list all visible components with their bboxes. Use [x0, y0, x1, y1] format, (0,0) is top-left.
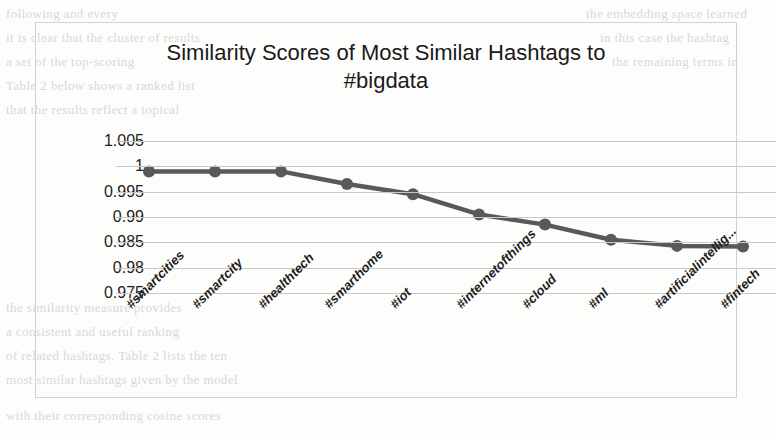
background-text-line: the embedding space learned — [586, 6, 747, 22]
gridline — [116, 166, 776, 167]
data-point-marker[interactable] — [341, 178, 353, 190]
background-text-line: with their corresponding cosine scores — [6, 408, 221, 424]
gridline — [116, 192, 776, 193]
gridline — [116, 268, 776, 269]
data-point-marker[interactable] — [605, 234, 617, 246]
plot-area — [116, 141, 776, 293]
data-point-marker[interactable] — [539, 219, 551, 231]
series-line — [149, 171, 743, 246]
gridline — [116, 242, 776, 243]
chart-title-line-1: Similarity Scores of Most Similar Hashta… — [96, 39, 676, 67]
gridline — [116, 217, 776, 218]
chart-title-line-2: #bigdata — [96, 67, 676, 95]
chart-figure: Similarity Scores of Most Similar Hashta… — [35, 22, 737, 398]
data-point-marker[interactable] — [473, 208, 485, 220]
data-point-marker[interactable] — [407, 188, 419, 200]
gridline — [116, 141, 776, 142]
background-text-line: following and every — [6, 6, 118, 22]
chart-title: Similarity Scores of Most Similar Hashta… — [96, 39, 676, 95]
